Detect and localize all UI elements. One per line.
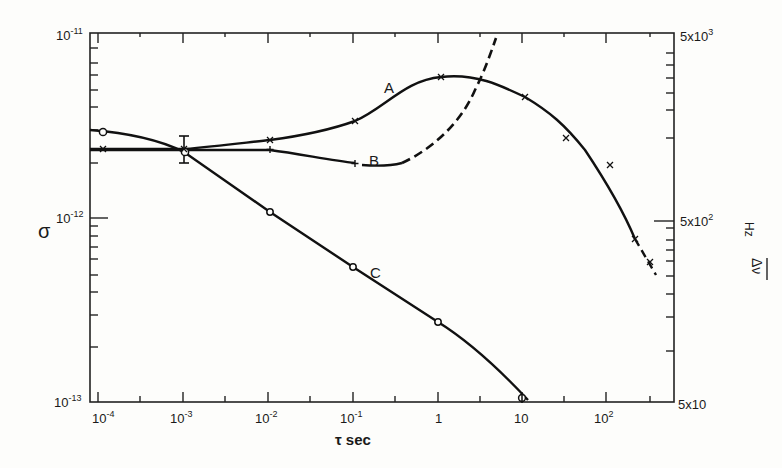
curve-b-dashed [402,38,496,163]
y2-axis-unit: Hz [742,222,756,237]
curve-label-a: A [384,79,394,96]
y-tick-top: 10-11 [56,26,83,43]
allan-variance-chart: A B C 10-11 10-12 10-13 σ 10-4 10-3 10-2… [0,0,782,468]
x-tick-1: 10-3 [170,409,192,426]
curve-c [90,130,528,400]
plot-frame [90,33,674,402]
x-tick-5: 10 [514,411,528,426]
curve-a-dashed-tail [635,239,656,275]
y2-tick-bottom: 5x10 [678,397,706,412]
curve-a [90,76,635,239]
svg-text:Δν: Δν [749,258,765,274]
y2-axis-label: Δν [749,258,767,280]
x-tick-2: 10-2 [255,409,277,426]
y2-tick-mid: 5x102 [680,212,713,229]
y-tick-mid: 10-12 [56,209,83,226]
curve-label-b: B [369,152,379,169]
y2-tick-top: 5x103 [680,27,713,44]
curve-a-markers [100,74,653,265]
x-axis-label: τ sec [335,431,371,448]
x-tick-0: 10-4 [92,409,114,426]
y-tick-bottom: 10-13 [54,393,81,410]
curve-c-markers [99,128,525,403]
x-axis-ticks [98,33,650,402]
y2-axis-ticks [654,53,674,351]
curve-label-c: C [370,264,381,281]
y-axis-ticks [90,48,108,347]
x-tick-4: 1 [435,411,442,426]
x-tick-6: 102 [594,409,613,426]
x-tick-3: 10-1 [340,409,362,426]
y-axis-label: σ [38,220,51,242]
